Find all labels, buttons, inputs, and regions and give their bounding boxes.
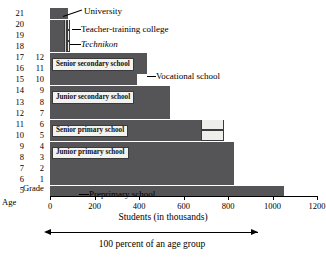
grade-tick-12: 12 bbox=[36, 53, 45, 62]
bar-segment-teacher-training-college-age-20 bbox=[67, 19, 70, 30]
age-group-span-line bbox=[46, 232, 258, 233]
age-tick-8: 8 bbox=[20, 153, 24, 162]
bar-segment-senior-secondary-school-age-15 bbox=[50, 74, 137, 85]
x-tick-600 bbox=[184, 196, 185, 200]
grade-tick-4: 4 bbox=[40, 142, 44, 151]
bar-segment-university-age-18 bbox=[50, 41, 64, 52]
bar-label-senior-primary-school: Senior primary school bbox=[52, 125, 128, 138]
bar-segment-junior-primary-school-age-6 bbox=[50, 174, 234, 185]
leader-line-preprimary-school bbox=[79, 194, 89, 195]
x-tick-label-0: 0 bbox=[48, 201, 52, 211]
age-tick-9: 9 bbox=[20, 142, 24, 151]
bar-band-age-7 bbox=[50, 163, 317, 174]
age-tick-11: 11 bbox=[16, 120, 24, 129]
age-tick-19: 19 bbox=[16, 31, 25, 40]
bar-segment-junior-secondary-school-age-12 bbox=[50, 108, 170, 119]
arrow-left-icon bbox=[44, 229, 51, 235]
age-group-annotation: 100 percent of an age group bbox=[46, 239, 258, 249]
bar-band-age-6 bbox=[50, 174, 317, 185]
x-tick-800 bbox=[228, 196, 229, 200]
age-tick-14: 14 bbox=[16, 86, 25, 95]
band-separator bbox=[50, 52, 317, 53]
band-separator bbox=[50, 85, 317, 86]
bar-band-age-12 bbox=[50, 108, 317, 119]
x-tick-200 bbox=[95, 196, 96, 200]
band-separator bbox=[50, 119, 317, 120]
grade-tick-6: 6 bbox=[40, 120, 44, 129]
x-tick-0 bbox=[50, 196, 51, 200]
bar-label-junior-primary-school: Junior primary school bbox=[52, 147, 129, 160]
x-tick-label-600: 600 bbox=[177, 201, 190, 211]
x-tick-label-1000: 1000 bbox=[264, 201, 281, 211]
callout-technikon: Technikon bbox=[81, 40, 118, 49]
band-separator bbox=[50, 19, 317, 20]
band-separator bbox=[50, 141, 317, 142]
age-axis-label: Age bbox=[2, 197, 16, 207]
grade-tick-10: 10 bbox=[36, 75, 45, 84]
age-tick-12: 12 bbox=[16, 109, 25, 118]
age-tick-15: 15 bbox=[16, 75, 25, 84]
bar-segment-junior-primary-school-age-7 bbox=[50, 163, 234, 174]
bar-segment-university-age-19 bbox=[50, 30, 64, 41]
leader-line-teacher-training-college bbox=[72, 29, 81, 30]
age-tick-7: 7 bbox=[20, 164, 24, 173]
age-tick-10: 10 bbox=[16, 131, 25, 140]
callout-teacher-training-college: Teacher-training college bbox=[81, 25, 168, 34]
bar-label-senior-secondary-school: Senior secondary school bbox=[52, 58, 134, 71]
bar-segment-extra-age-10 bbox=[201, 130, 223, 141]
grade-tick-5: 5 bbox=[40, 131, 44, 140]
age-axis-ticks: 21201918171615141312111098765 bbox=[0, 8, 30, 196]
x-tick-1000 bbox=[273, 196, 274, 200]
x-tick-label-200: 200 bbox=[88, 201, 101, 211]
grade-tick-9: 9 bbox=[40, 86, 44, 95]
bar-segment-vocational-school-age-16 bbox=[137, 63, 147, 74]
bar-segment-teacher-training-college-age-18 bbox=[67, 41, 70, 52]
chart-figure: 21201918171615141312111098765 1211109876… bbox=[0, 0, 326, 258]
grade-tick-8: 8 bbox=[40, 98, 44, 107]
grade-tick-7: 7 bbox=[40, 109, 44, 118]
grade-tick-2: 2 bbox=[40, 164, 44, 173]
age-tick-21: 21 bbox=[16, 9, 25, 18]
x-tick-400 bbox=[139, 196, 140, 200]
bar-label-junior-secondary-school: Junior secondary school bbox=[52, 91, 134, 104]
callout-university: University bbox=[84, 7, 122, 16]
x-tick-1200 bbox=[317, 196, 318, 200]
bar-segment-teacher-training-college-age-19 bbox=[67, 30, 70, 41]
x-tick-label-800: 800 bbox=[222, 201, 235, 211]
bar-segment-vocational-school-age-17 bbox=[137, 52, 147, 63]
plot-area: Senior secondary schoolJunior secondary … bbox=[50, 8, 317, 196]
grade-axis-label: Grade bbox=[23, 183, 44, 193]
arrow-right-icon bbox=[251, 229, 258, 235]
callout-preprimary-school: Preprimary school bbox=[89, 190, 155, 199]
grade-tick-3: 3 bbox=[40, 153, 44, 162]
bar-segment-university-age-21 bbox=[50, 8, 68, 19]
age-tick-13: 13 bbox=[16, 98, 25, 107]
age-tick-18: 18 bbox=[16, 42, 25, 51]
x-axis-title: Students (in thousands) bbox=[0, 212, 326, 222]
x-tick-label-1200: 1200 bbox=[309, 201, 326, 211]
leader-line-technikon bbox=[70, 44, 81, 45]
leader-line-vocational-school bbox=[147, 76, 156, 77]
age-tick-20: 20 bbox=[16, 20, 25, 29]
age-tick-17: 17 bbox=[16, 53, 25, 62]
bar-segment-extra-age-11 bbox=[201, 119, 223, 130]
bar-segment-university-age-20 bbox=[50, 19, 64, 30]
age-tick-16: 16 bbox=[16, 64, 25, 73]
callout-vocational-school: Vocational school bbox=[156, 72, 220, 81]
grade-axis-ticks: 121110987654321 bbox=[30, 8, 47, 196]
x-tick-label-400: 400 bbox=[133, 201, 146, 211]
grade-tick-11: 11 bbox=[36, 64, 44, 73]
band-separator bbox=[50, 185, 317, 186]
